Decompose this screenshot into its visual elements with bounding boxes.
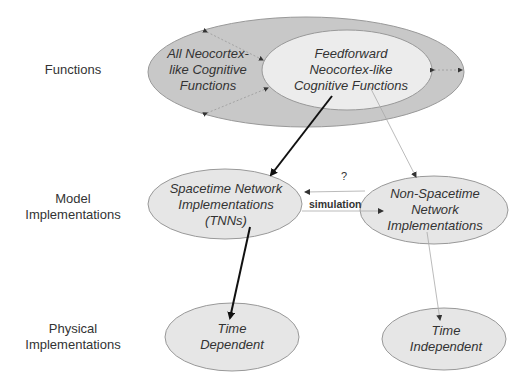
row-label-line: Implementations (18, 337, 128, 353)
row-label-line: Functions (28, 62, 118, 78)
row-label-line: Implementations (18, 207, 128, 223)
node-label-line: Independent (410, 339, 482, 355)
node-label-line: Implementations (170, 197, 283, 213)
node-label-line: Neocortex-like (294, 62, 408, 78)
node-label-line: Functions (167, 78, 249, 94)
node-label-line: (TNNs) (170, 213, 283, 229)
node-label-line: Network (387, 202, 482, 218)
node-label-line: Time (200, 321, 264, 337)
time-independent-label: Time Independent (410, 323, 482, 355)
row-label-functions: Functions (28, 62, 118, 78)
all-functions-label: All Neocortex- like Cognitive Functions (167, 46, 249, 94)
spacetime-impl-label: Spacetime Network Implementations (TNNs) (170, 181, 283, 229)
non-spacetime-to-time-independent-arrow (427, 232, 440, 320)
node-label-line: All Neocortex- (167, 46, 249, 62)
node-label-line: like Cognitive (167, 62, 249, 78)
row-label-line: Model (18, 191, 128, 207)
row-label-physical-implementations: Physical Implementations (18, 321, 128, 353)
simulation-edge-label: simulation (309, 198, 362, 210)
row-label-model-implementations: Model Implementations (18, 191, 128, 223)
diagram-canvas: Functions Model Implementations Physical… (0, 0, 530, 389)
node-label-line: Non-Spacetime (387, 186, 482, 202)
non-spacetime-impl-label: Non-Spacetime Network Implementations (387, 186, 482, 234)
row-label-line: Physical (18, 321, 128, 337)
feedforward-functions-label: Feedforward Neocortex-like Cognitive Fun… (294, 46, 408, 94)
node-label-line: Spacetime Network (170, 181, 283, 197)
question-arrow (305, 191, 365, 192)
node-label-line: Feedforward (294, 46, 408, 62)
node-label-line: Implementations (387, 218, 482, 234)
time-dependent-label: Time Dependent (200, 321, 264, 353)
question-edge-label: ? (341, 170, 347, 182)
node-label-line: Cognitive Functions (294, 78, 408, 94)
node-label-line: Dependent (200, 337, 264, 353)
node-label-line: Time (410, 323, 482, 339)
